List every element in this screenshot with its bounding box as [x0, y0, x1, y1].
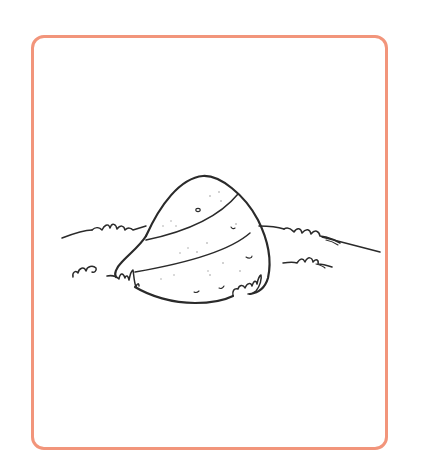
egg-stripes	[135, 194, 250, 272]
lower-right-grass-tuft	[283, 258, 332, 268]
egg-illustration	[0, 0, 426, 476]
egg-stripe-upper	[146, 194, 238, 240]
right-ground-line	[259, 226, 380, 252]
left-ground-line	[62, 224, 146, 238]
egg-left-grass	[107, 270, 139, 287]
lower-left-grass-tuft	[73, 266, 96, 277]
